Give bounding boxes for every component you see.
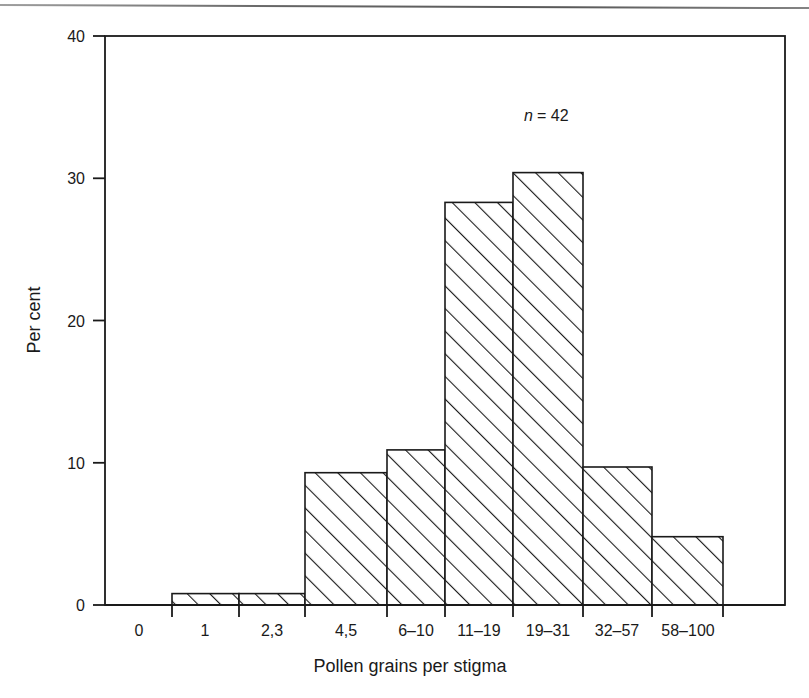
x-tick-label-0: 0 — [135, 622, 144, 639]
y-tick-label-40: 40 — [67, 28, 85, 45]
bar-4-5[interactable] — [305, 473, 387, 605]
bars-group — [172, 173, 723, 605]
bar-11-19[interactable] — [445, 202, 513, 605]
y-tick-label-10: 10 — [67, 455, 85, 472]
y-tick-labels: 0 10 20 30 40 — [67, 28, 85, 614]
x-tick-label-1: 1 — [201, 622, 210, 639]
bar-19-31[interactable] — [513, 173, 583, 605]
y-tick-label-30: 30 — [67, 170, 85, 187]
sample-size-symbol: n — [524, 107, 533, 124]
histogram-svg: 0 10 20 30 40 Per cent — [0, 0, 809, 698]
y-tick-label-20: 20 — [67, 313, 85, 330]
x-tick-label-2-3: 2,3 — [261, 622, 283, 639]
bar-32-57[interactable] — [583, 467, 652, 605]
x-tick-label-32-57: 32–57 — [595, 622, 640, 639]
x-tick-label-6-10: 6–10 — [398, 622, 434, 639]
sample-size-annotation: n = 42 — [524, 107, 569, 124]
x-tick-label-4-5: 4,5 — [335, 622, 357, 639]
x-tick-label-19-31: 19–31 — [526, 622, 571, 639]
bar-1[interactable] — [172, 594, 239, 605]
x-axis-title: Pollen grains per stigma — [313, 656, 507, 676]
y-axis-ticks — [93, 36, 105, 605]
figure-page: 0 10 20 30 40 Per cent — [0, 0, 809, 698]
sample-size-value: = 42 — [537, 107, 569, 124]
y-axis-title: Per cent — [24, 286, 44, 353]
x-tick-label-11-19: 11–19 — [457, 622, 500, 639]
y-tick-label-0: 0 — [76, 597, 85, 614]
x-axis-ticks — [172, 605, 723, 617]
x-tick-labels: 0 1 2,3 4,5 6–10 11–19 19–31 32–57 58–10… — [135, 622, 715, 639]
x-tick-label-58-100: 58–100 — [661, 622, 714, 639]
bar-6-10[interactable] — [387, 450, 445, 605]
histogram-figure: 0 10 20 30 40 Per cent — [0, 0, 809, 698]
bar-58-100[interactable] — [652, 537, 723, 605]
bar-2-3[interactable] — [239, 594, 305, 605]
